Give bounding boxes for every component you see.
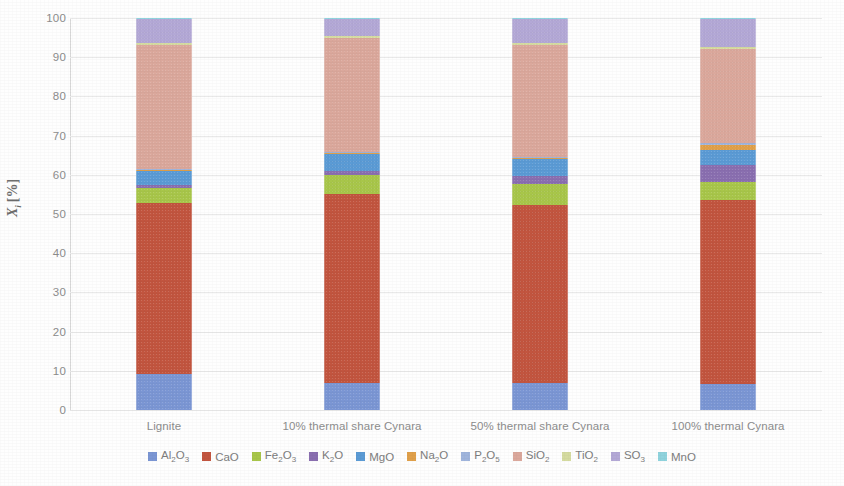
y-tick-label: 90 xyxy=(8,51,66,63)
legend-label: MgO xyxy=(369,451,394,463)
y-tick-label: 40 xyxy=(8,247,66,259)
y-tick-label: 0 xyxy=(8,404,66,416)
bar-segment[interactable] xyxy=(324,175,380,194)
legend-swatch-icon xyxy=(513,452,522,461)
legend-swatch-icon xyxy=(611,452,620,461)
bar-segment[interactable] xyxy=(136,169,192,170)
bar-segment[interactable] xyxy=(512,19,568,43)
legend-swatch-icon xyxy=(407,452,416,461)
bar-stack xyxy=(136,18,192,410)
legend-swatch-icon xyxy=(252,452,261,461)
bar-segment[interactable] xyxy=(324,171,380,175)
y-tick-label: 10 xyxy=(8,365,66,377)
legend-item[interactable]: MgO xyxy=(356,451,394,463)
bar-segment[interactable] xyxy=(324,383,380,410)
x-category-label: 10% thermal share Cynara xyxy=(242,420,462,432)
bar-segment[interactable] xyxy=(512,176,568,184)
bar-segment[interactable] xyxy=(324,18,380,19)
plot-area xyxy=(70,18,822,410)
bar-segment[interactable] xyxy=(512,18,568,19)
legend-swatch-icon xyxy=(202,452,211,461)
bar-segment[interactable] xyxy=(512,205,568,383)
x-category-label: 50% thermal share Cynara xyxy=(430,420,650,432)
bar-segment[interactable] xyxy=(700,19,756,47)
y-tick-label: 80 xyxy=(8,90,66,102)
chart-legend: Al2O3CaOFe2O3K2OMgONa2OP2O5SiO2TiO2SO3Mn… xyxy=(0,449,844,464)
bar-segment[interactable] xyxy=(136,185,192,188)
legend-item[interactable]: Al2O3 xyxy=(148,449,189,464)
stacked-bar-chart: Xi[%] 0102030405060708090100 Lignite10% … xyxy=(0,0,844,486)
bar-segment[interactable] xyxy=(700,18,756,19)
y-tick-label: 60 xyxy=(8,169,66,181)
bar-segment[interactable] xyxy=(136,18,192,19)
bar-segment[interactable] xyxy=(700,49,756,143)
legend-swatch-icon xyxy=(658,452,667,461)
legend-item[interactable]: CaO xyxy=(202,451,239,463)
legend-label: MnO xyxy=(671,451,696,463)
y-tick-label: 20 xyxy=(8,326,66,338)
bar-segment[interactable] xyxy=(700,165,756,182)
bar-segment[interactable] xyxy=(700,182,756,200)
y-axis-ticks: 0102030405060708090100 xyxy=(0,0,66,486)
bar-segment[interactable] xyxy=(324,36,380,38)
legend-label: K2O xyxy=(322,449,343,464)
bar-segment[interactable] xyxy=(512,159,568,176)
bar-segment[interactable] xyxy=(700,384,756,410)
bar-segment[interactable] xyxy=(136,203,192,374)
legend-label: CaO xyxy=(215,451,239,463)
bar-segment[interactable] xyxy=(512,383,568,410)
legend-label: SO3 xyxy=(624,449,645,464)
legend-label: Al2O3 xyxy=(161,449,189,464)
legend-item[interactable]: K2O xyxy=(309,449,343,464)
y-tick-label: 50 xyxy=(8,208,66,220)
legend-label: Fe2O3 xyxy=(265,449,296,464)
bar-segment[interactable] xyxy=(700,200,756,384)
bar-segment[interactable] xyxy=(700,145,756,151)
legend-item[interactable]: Fe2O3 xyxy=(252,449,296,464)
bar-segment[interactable] xyxy=(700,143,756,145)
bar-segment[interactable] xyxy=(512,43,568,45)
bar-segment[interactable] xyxy=(136,188,192,203)
bar-stack xyxy=(700,18,756,410)
legend-item[interactable]: TiO2 xyxy=(562,449,598,464)
bar-segment[interactable] xyxy=(324,19,380,36)
y-tick-label: 30 xyxy=(8,286,66,298)
legend-item[interactable]: Na2O xyxy=(407,449,448,464)
bar-stack xyxy=(324,18,380,410)
x-category-label: Lignite xyxy=(54,420,274,432)
legend-item[interactable]: SiO2 xyxy=(513,449,550,464)
legend-label: P2O5 xyxy=(474,449,500,464)
legend-swatch-icon xyxy=(461,452,470,461)
legend-label: TiO2 xyxy=(575,449,598,464)
bar-segment[interactable] xyxy=(512,157,568,158)
bar-segment[interactable] xyxy=(136,45,192,168)
bar-segment[interactable] xyxy=(136,43,192,45)
legend-swatch-icon xyxy=(356,452,365,461)
bar-segment[interactable] xyxy=(512,45,568,157)
bar-segment[interactable] xyxy=(324,38,380,152)
y-tick-label: 70 xyxy=(8,130,66,142)
legend-swatch-icon xyxy=(562,452,571,461)
legend-label: Na2O xyxy=(420,449,448,464)
bar-segment[interactable] xyxy=(700,150,756,165)
bar-segment[interactable] xyxy=(136,374,192,410)
bar-segment[interactable] xyxy=(512,158,568,159)
legend-swatch-icon xyxy=(309,452,318,461)
legend-item[interactable]: SO3 xyxy=(611,449,645,464)
bar-segment[interactable] xyxy=(324,194,380,383)
bar-stack xyxy=(512,18,568,410)
bar-segment[interactable] xyxy=(136,171,192,185)
x-category-label: 100% thermal Cynara xyxy=(618,420,838,432)
legend-swatch-icon xyxy=(148,452,157,461)
bar-segment[interactable] xyxy=(136,19,192,43)
bar-segment[interactable] xyxy=(324,152,380,153)
legend-item[interactable]: P2O5 xyxy=(461,449,500,464)
legend-item[interactable]: MnO xyxy=(658,451,696,463)
y-tick-label: 100 xyxy=(8,12,66,24)
legend-label: SiO2 xyxy=(526,449,550,464)
bar-segment[interactable] xyxy=(512,184,568,205)
bar-segment[interactable] xyxy=(700,47,756,49)
gridline xyxy=(70,410,822,411)
bar-segment[interactable] xyxy=(324,154,380,171)
